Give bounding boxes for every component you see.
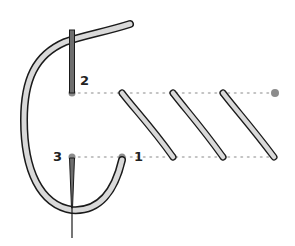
needle-top-icon xyxy=(70,30,75,93)
label-point-3: 3 xyxy=(53,149,62,164)
stitch-diagram: 2 3 1 xyxy=(0,0,295,246)
label-point-2: 2 xyxy=(80,73,89,88)
needle-bottom-icon xyxy=(70,158,75,238)
working-thread xyxy=(24,24,130,210)
completed-stitches xyxy=(122,93,274,157)
label-point-1: 1 xyxy=(134,149,143,164)
